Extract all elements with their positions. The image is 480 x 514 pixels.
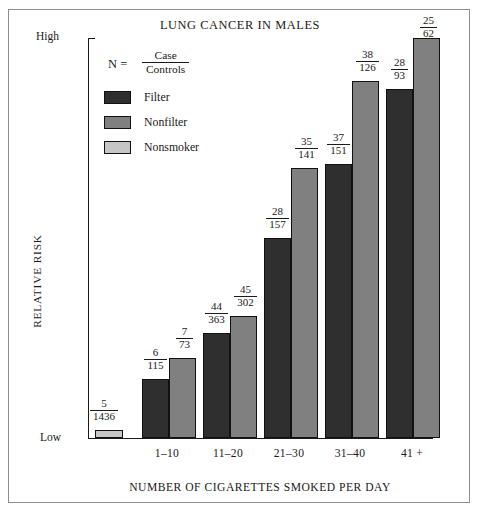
fraction-denominator: 73 [176, 338, 193, 351]
fraction-numerator: 5 [90, 398, 118, 410]
x-axis-title: NUMBER OF CIGARETTES SMOKED PER DAY [60, 481, 460, 494]
legend-label-filter: Filter [144, 90, 170, 105]
fraction-numerator: 28 [266, 206, 289, 218]
legend-swatch-filter-icon [104, 91, 131, 104]
bar-nonfilter-11-20 [230, 316, 257, 438]
fraction-numerator: 37 [327, 132, 350, 144]
fraction: 37151 [327, 132, 350, 157]
x-tick-label-2: 21–30 [258, 447, 320, 460]
y-axis-low-label: Low [40, 431, 61, 443]
y-axis-high-label: High [36, 30, 59, 42]
fraction: 2562 [420, 15, 437, 40]
bar-nonsmoker-reference [95, 430, 123, 438]
fraction: 28157 [266, 206, 289, 231]
fraction-denominator: 62 [420, 27, 437, 40]
bar-filter-21-30 [264, 238, 291, 438]
fraction-denominator: 93 [391, 69, 408, 82]
legend-swatch-nonfilter-icon [104, 116, 131, 129]
fraction-denominator: 1436 [90, 410, 118, 423]
legend-item-nonfilter: Nonfilter [100, 111, 270, 134]
bar-nonfilter-31-40 [352, 81, 379, 438]
legend-label-nonfilter: Nonfilter [144, 115, 187, 130]
x-tick-label-3: 31–40 [319, 447, 381, 460]
y-axis-title: RELATIVE RISK [31, 181, 43, 381]
notation-denominator: Controls [142, 62, 189, 76]
fraction-numerator: 45 [234, 284, 257, 296]
chart-legend: N = Case Controls Filter Nonfilter Nonsm… [100, 48, 270, 159]
bar-nonfilter-41plus [413, 38, 440, 438]
plot-area: LUNG CANCER IN MALES High Low RELATIVE R… [0, 0, 480, 514]
bar-filter-1-10 [142, 379, 169, 438]
notation-symbol: N = [108, 57, 127, 72]
bar-filter-11-20 [203, 333, 230, 438]
fraction-numerator: 7 [176, 326, 193, 338]
legend-label-nonsmoker: Nonsmoker [144, 140, 199, 155]
fraction: 51436 [90, 398, 118, 423]
x-axis-line [88, 438, 433, 439]
bar-filter-31-40 [325, 164, 352, 438]
bar-nonfilter-1-10 [169, 358, 196, 438]
fraction: 773 [176, 326, 193, 351]
notation-numerator: Case [142, 49, 189, 62]
x-tick-label-0: 1–10 [136, 447, 198, 460]
fraction-denominator: 363 [205, 313, 228, 326]
bar-value-label-nonfilter-41plus: 2562 [400, 15, 457, 40]
fraction-denominator: 302 [234, 296, 257, 309]
fraction-numerator: 25 [420, 15, 437, 27]
bar-nonfilter-21-30 [291, 168, 318, 438]
notation-fraction: Case Controls [142, 49, 189, 76]
x-tick-label-1: 11–20 [197, 447, 259, 460]
legend-item-nonsmoker: Nonsmoker [100, 136, 270, 159]
y-axis-line [88, 38, 89, 439]
fraction-denominator: 151 [327, 144, 350, 157]
chart-figure: LUNG CANCER IN MALES High Low RELATIVE R… [0, 0, 480, 514]
legend-notation: N = Case Controls [100, 48, 270, 84]
y-axis-high-tick [88, 38, 95, 39]
fraction: 45302 [234, 284, 257, 309]
fraction: 2893 [391, 57, 408, 82]
fraction-numerator: 28 [391, 57, 408, 69]
bar-filter-41plus [386, 89, 413, 438]
fraction-denominator: 115 [144, 359, 166, 372]
fraction: 6115 [144, 347, 166, 372]
legend-item-filter: Filter [100, 86, 270, 109]
bar-value-label-nonsmoker-reference: 51436 [75, 398, 133, 423]
x-tick-label-4: 41 + [381, 447, 443, 460]
legend-swatch-nonsmoker-icon [104, 141, 131, 154]
fraction-denominator: 157 [266, 218, 289, 231]
